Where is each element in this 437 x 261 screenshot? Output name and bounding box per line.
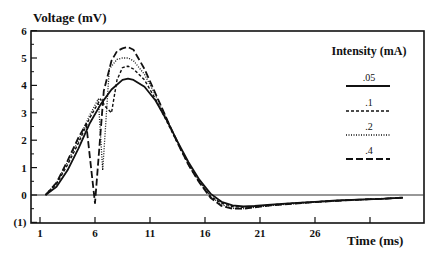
x-tick-label: 21 xyxy=(255,227,266,239)
legend-title: Intensity (mA) xyxy=(332,44,407,58)
x-tick-label: 26 xyxy=(310,227,322,239)
legend-label: .05 xyxy=(363,72,376,83)
series-line-1 xyxy=(46,66,404,207)
voltage-time-chart: Voltage (mV) 6543210(1) 1611162126 Inten… xyxy=(0,0,437,261)
x-tick-label: 6 xyxy=(92,227,98,239)
y-tick-label: 6 xyxy=(21,25,27,37)
x-tick-label: 1 xyxy=(37,227,43,239)
y-tick-label: 3 xyxy=(21,107,27,119)
y-tick-label: 2 xyxy=(21,134,27,146)
x-axis-ticks: 1611162126 xyxy=(37,217,370,239)
y-tick-label: 4 xyxy=(21,79,27,91)
x-tick-label: 11 xyxy=(145,227,155,239)
y-tick-label: (1) xyxy=(14,216,27,229)
legend: Intensity (mA) .05.1.2.4 xyxy=(332,44,407,159)
y-tick-label: 5 xyxy=(21,52,27,64)
x-tick-label: 16 xyxy=(200,227,212,239)
legend-label: .4 xyxy=(365,145,373,156)
data-series xyxy=(46,47,404,209)
series-line-4 xyxy=(46,47,404,209)
y-tick-label: 0 xyxy=(21,189,27,201)
x-axis-label: Time (ms) xyxy=(347,233,403,248)
y-axis-ticks: 6543210(1) xyxy=(14,25,37,230)
legend-label: .2 xyxy=(365,121,373,132)
y-tick-label: 1 xyxy=(21,162,27,174)
series-line-2 xyxy=(46,58,404,209)
legend-label: .1 xyxy=(365,97,373,108)
y-axis-label: Voltage (mV) xyxy=(33,10,107,25)
